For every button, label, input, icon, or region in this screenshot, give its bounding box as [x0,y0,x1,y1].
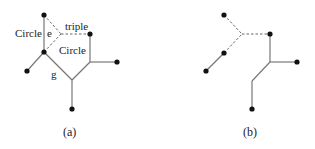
label-circle-center: Circle [59,45,86,56]
label-triple: triple [65,21,88,32]
label-edge-g: g [51,69,57,80]
diagram-canvas [0,0,315,149]
panel-b-graph [203,12,299,111]
label-circle-left: Circle [15,28,42,39]
caption-b: (b) [243,126,257,138]
label-edge-e: e [47,28,52,39]
caption-a: (a) [63,126,76,138]
